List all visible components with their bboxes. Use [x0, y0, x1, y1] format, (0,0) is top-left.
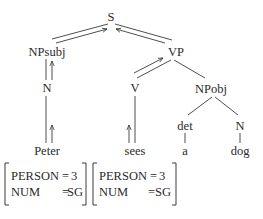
node-np-obj: NPobj	[195, 82, 227, 96]
bracket-left	[5, 163, 9, 205]
syntax-tree-diagram: S NPsubj VP N V NPobj det N Peter sees a…	[0, 0, 263, 219]
node-v: V	[130, 81, 139, 95]
feature-name: NUM	[11, 185, 40, 199]
node-np-subj: NPsubj	[29, 45, 66, 59]
node-det: det	[177, 119, 193, 133]
node-n-obj: N	[235, 119, 244, 133]
arrow-v-to-vp	[134, 58, 163, 73]
leaf-dog: dog	[231, 144, 251, 158]
feature-value: 3	[71, 169, 77, 183]
feature-name: PERSON	[99, 169, 147, 183]
feature-structure-peter: PERSON = 3 NUM = SG	[5, 163, 86, 205]
bracket-left	[93, 163, 97, 205]
feature-value: 3	[159, 169, 165, 183]
bracket-right	[172, 163, 176, 205]
edge-vp-npobj	[174, 60, 205, 78]
leaf-peter: Peter	[34, 144, 61, 158]
edge-s-vp	[115, 24, 172, 40]
feature-value: SG	[155, 185, 171, 199]
feature-structure-sees: PERSON = 3 NUM = SG	[93, 163, 176, 205]
edge-npobj-det	[188, 97, 212, 115]
node-s: S	[108, 10, 115, 24]
feature-eq: =	[62, 169, 69, 183]
leaf-a: a	[182, 144, 188, 158]
feature-value: SG	[67, 185, 83, 199]
leaf-sees: sees	[125, 144, 146, 158]
feature-eq: =	[148, 185, 155, 199]
edge-npobj-n	[215, 97, 238, 115]
feature-eq: =	[150, 169, 157, 183]
feature-name: NUM	[99, 185, 128, 199]
node-vp: VP	[168, 45, 184, 59]
node-n-subj: N	[42, 81, 51, 95]
feature-name: PERSON	[11, 169, 59, 183]
